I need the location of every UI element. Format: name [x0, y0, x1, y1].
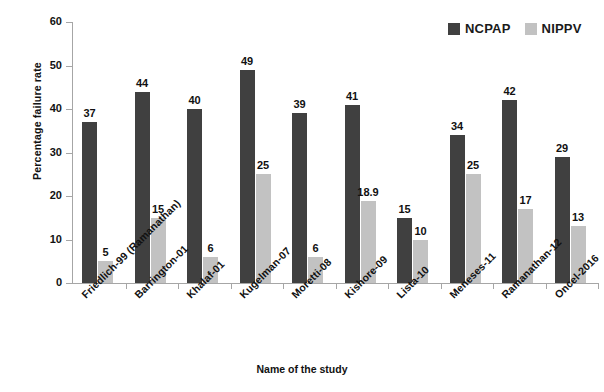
bar-ncpap: [450, 135, 465, 283]
bar-ncpap: [82, 122, 97, 283]
y-tick-mark: [66, 66, 73, 67]
x-tick-mark: [546, 284, 547, 289]
bar-group: 375: [73, 22, 126, 283]
plot-area: 375441540649253964118.91510342542172913: [73, 22, 598, 283]
x-tick-mark: [283, 284, 284, 289]
caption-sliver: [250, 387, 604, 392]
x-tick-mark: [336, 284, 337, 289]
bar-value-label: 40: [175, 94, 215, 106]
y-tick-label: 10: [36, 233, 62, 245]
x-tick-mark: [388, 284, 389, 289]
bar-value-label: 10: [401, 225, 441, 237]
y-tick-label: 40: [36, 102, 62, 114]
bar-group: 406: [178, 22, 231, 283]
bar-value-label: 25: [453, 159, 493, 171]
bar-value-label: 17: [506, 194, 546, 206]
bar-value-label: 41: [332, 90, 372, 102]
x-tick-mark: [598, 284, 599, 289]
y-tick-label: 30: [36, 146, 62, 158]
y-tick-mark: [66, 240, 73, 241]
bar-group: 4925: [231, 22, 284, 283]
chart-screenshot: NCPAP NIPPV Percentage failure rate 0102…: [0, 0, 604, 392]
bar-value-label: 42: [490, 85, 530, 97]
y-tick-label: 50: [36, 59, 62, 71]
y-tick-mark: [66, 22, 73, 23]
x-tick-mark: [126, 284, 127, 289]
y-tick-label: 60: [36, 15, 62, 27]
bar-value-label: 37: [70, 107, 110, 119]
bar-ncpap: [292, 113, 307, 283]
bar-ncpap: [240, 70, 255, 283]
bar-value-label: 18.9: [348, 186, 388, 198]
x-axis-title: Name of the study: [0, 363, 604, 375]
bar-group: 4118.9: [336, 22, 389, 283]
x-tick-mark: [493, 284, 494, 289]
y-tick-mark: [66, 196, 73, 197]
bar-ncpap: [135, 92, 150, 283]
bar-value-label: 13: [558, 211, 598, 223]
bar-value-label: 44: [122, 77, 162, 89]
x-tick-mark: [178, 284, 179, 289]
bar-value-label: 29: [542, 142, 582, 154]
y-tick-label: 0: [36, 276, 62, 288]
bar-value-label: 34: [437, 120, 477, 132]
bar-group: 1510: [388, 22, 441, 283]
bar-group: 396: [283, 22, 336, 283]
y-tick-label: 20: [36, 189, 62, 201]
bar-value-label: 15: [385, 203, 425, 215]
bar-ncpap: [502, 100, 517, 283]
bar-value-label: 6: [296, 242, 336, 254]
bar-value-label: 25: [243, 159, 283, 171]
x-tick-mark: [441, 284, 442, 289]
x-tick-mark: [231, 284, 232, 289]
y-tick-mark: [66, 153, 73, 154]
bar-value-label: 49: [227, 55, 267, 67]
bar-value-label: 6: [191, 242, 231, 254]
bar-ncpap: [187, 109, 202, 283]
bar-value-label: 39: [280, 98, 320, 110]
bar-group: 3425: [441, 22, 494, 283]
bar-group: 4217: [493, 22, 546, 283]
